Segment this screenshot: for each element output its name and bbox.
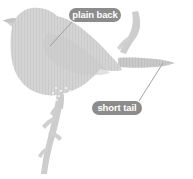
callout-label-short-tail: short tail [97, 103, 136, 113]
bird-tail [118, 58, 175, 68]
callout-label-plain-back: plain back [72, 10, 117, 20]
bird-identification-figure: plain back short tail [0, 0, 193, 179]
callout-badge-short-tail[interactable]: short tail [92, 101, 142, 115]
bird-illustration [0, 0, 193, 179]
leader-line-short-tail [139, 63, 163, 101]
branch-upper-right [120, 11, 140, 54]
callout-badge-plain-back[interactable]: plain back [69, 8, 121, 22]
